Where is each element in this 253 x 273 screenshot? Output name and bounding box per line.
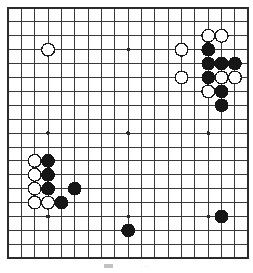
white-stone[interactable] [28, 155, 41, 168]
white-stone[interactable] [42, 196, 55, 209]
black-stone[interactable] [202, 57, 215, 70]
black-stone[interactable] [215, 85, 228, 98]
white-stone[interactable] [28, 196, 41, 209]
white-stone[interactable] [202, 29, 215, 42]
black-stone[interactable] [55, 196, 68, 209]
star-point [126, 215, 130, 219]
go-board[interactable] [2, 2, 251, 260]
white-stone[interactable] [175, 43, 188, 56]
black-stone[interactable] [42, 182, 55, 195]
white-stone[interactable] [28, 168, 41, 181]
board-background [2, 2, 251, 260]
star-point [126, 131, 130, 135]
caption-area: · ·· [0, 259, 253, 273]
star-point [206, 131, 210, 135]
go-board-canvas[interactable] [2, 2, 251, 260]
black-stone[interactable] [229, 57, 242, 70]
go-board-figure: · ·· [0, 0, 253, 273]
black-stone[interactable] [42, 155, 55, 168]
white-stone[interactable] [229, 71, 242, 84]
black-stone[interactable] [215, 57, 228, 70]
black-stone[interactable] [215, 210, 228, 223]
black-stone[interactable] [122, 224, 135, 237]
black-stone[interactable] [42, 168, 55, 181]
star-point [126, 48, 130, 52]
black-stone[interactable] [202, 43, 215, 56]
caption-left-mark [104, 264, 113, 268]
caption-right-mark: · ·· [139, 263, 149, 269]
star-point [46, 131, 50, 135]
black-stone[interactable] [68, 182, 81, 195]
white-stone[interactable] [215, 29, 228, 42]
star-point [46, 215, 50, 219]
white-stone[interactable] [42, 43, 55, 56]
white-stone[interactable] [175, 71, 188, 84]
star-point [206, 215, 210, 219]
white-stone[interactable] [28, 182, 41, 195]
black-stone[interactable] [215, 99, 228, 112]
white-stone[interactable] [215, 71, 228, 84]
white-stone[interactable] [202, 85, 215, 98]
black-stone[interactable] [202, 71, 215, 84]
